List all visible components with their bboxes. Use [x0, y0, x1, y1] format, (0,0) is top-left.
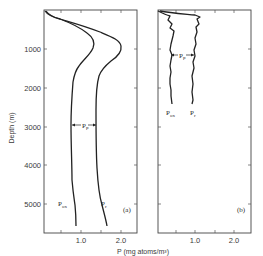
panel-b-pox-curve [158, 11, 174, 104]
panel-a-x-tick-1.0: 1.0 [76, 236, 86, 245]
y-axis-title: Depth (m) [8, 112, 16, 143]
panel-a-pox-label: Pox [58, 200, 67, 209]
svg-text:Pp: Pp [82, 122, 89, 131]
panel-a-pr-curve [46, 11, 121, 226]
y-tick-1000: 1000 [24, 45, 41, 54]
depth-profile-figure: Depth (m) 1000 2000 3000 4000 5000 1.0 2… [0, 0, 263, 256]
panel-b-x-tick-1.0: 1.0 [190, 236, 200, 245]
panel-a-pr-label: Pr [101, 200, 107, 209]
panel-a-pox-curve [45, 11, 94, 226]
y-tick-3000: 3000 [24, 123, 41, 132]
panel-b-y-ticks [158, 49, 251, 204]
panel-b-frame [158, 10, 251, 233]
panel-a: 1.0 2.0 Pp Pox Pr (a) [44, 10, 137, 245]
panel-a-label: (a) [123, 206, 131, 214]
panel-b-x-tick-2.0: 2.0 [229, 236, 239, 245]
x-axis-title: P (mg atoms/m³) [117, 248, 169, 256]
panel-b-label: (b) [237, 206, 246, 214]
y-tick-labels: 1000 2000 3000 4000 5000 [24, 45, 41, 209]
y-tick-2000: 2000 [24, 84, 41, 93]
panel-a-x-tick-2.0: 2.0 [116, 236, 126, 245]
svg-text:Pp: Pp [179, 52, 186, 61]
panel-a-pp-annotation: Pp [72, 122, 96, 131]
panel-b-pox-label: Pox [166, 109, 175, 118]
panel-a-x-ticks [61, 10, 121, 233]
panel-a-y-ticks [44, 49, 137, 204]
panel-b: 1.0 2.0 Pp Pox Pr (b) [158, 10, 251, 245]
y-tick-5000: 5000 [24, 200, 41, 209]
panel-b-x-ticks [176, 10, 234, 233]
panel-b-pp-annotation: Pp [171, 52, 194, 61]
y-tick-4000: 4000 [24, 161, 41, 170]
panel-b-pr-label: Pr [190, 109, 196, 118]
